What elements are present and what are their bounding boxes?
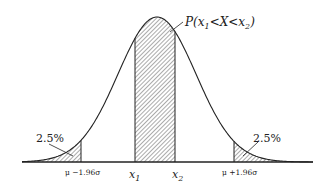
- upper-bound-label: μ +1.96σ: [222, 168, 257, 177]
- normal-distribution-diagram: P(x1<X<x2) 2.5% 2.5% μ −1.96σ x1 x2 μ +1…: [0, 0, 328, 187]
- lower-bound-label: μ −1.96σ: [65, 168, 100, 177]
- left-tail-percent-label: 2.5%: [36, 132, 64, 145]
- probability-label: P(x1<X<x2): [184, 15, 255, 31]
- x1-label: x1: [129, 168, 140, 183]
- x2-label: x2: [172, 168, 183, 183]
- right-tail-percent-label: 2.5%: [253, 132, 281, 145]
